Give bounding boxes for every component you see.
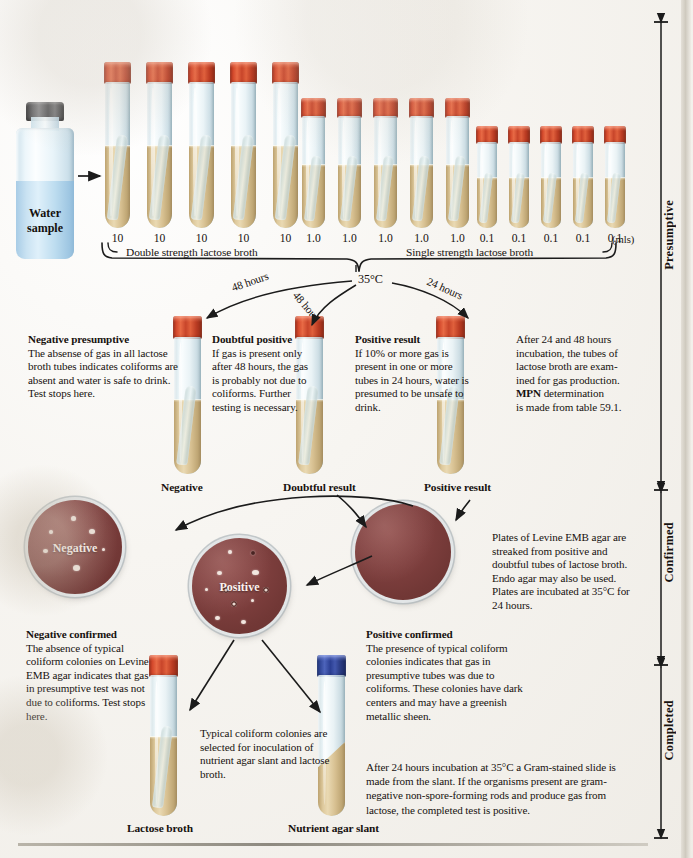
single-strength-bracket-label: Single strength lactose broth xyxy=(406,246,533,260)
positive-result-heading: Positive result xyxy=(355,333,420,345)
dilution-volume-4: 10 xyxy=(221,232,266,245)
negative-confirmed-heading: Negative confirmed xyxy=(26,628,117,640)
dilution-tube-11 xyxy=(477,142,497,228)
figure-page: Water sample xyxy=(0,0,693,858)
tube-glass xyxy=(477,142,497,228)
tube-highlight xyxy=(193,88,196,216)
page-right-edge xyxy=(681,0,691,858)
tube-glass xyxy=(147,82,172,228)
negative-presumptive-heading: Negative presumptive xyxy=(28,333,129,345)
dilution-tube-5-cap xyxy=(272,62,299,84)
water-sample-label-line2: sample xyxy=(27,221,63,235)
tube-glass xyxy=(410,116,433,228)
tube-highlight xyxy=(342,120,345,219)
tube-glass xyxy=(302,116,325,228)
colony xyxy=(217,571,222,575)
water-sample-label-line1: Water xyxy=(29,206,61,220)
dilution-tube-8 xyxy=(374,116,397,228)
dilution-volume-1: 10 xyxy=(95,232,140,245)
tube-glass xyxy=(273,82,298,228)
lactose-broth-tube xyxy=(150,675,177,816)
dilution-tube-6-cap xyxy=(301,98,326,118)
branch-label-right: 24 hours xyxy=(424,275,464,303)
mpn-note-line6: is made from table 59.1. xyxy=(516,401,621,413)
dilution-tube-4-cap xyxy=(230,62,257,84)
tube-glass xyxy=(231,82,256,228)
negative-confirmed-body: The absence of typical coliform colonies… xyxy=(26,642,149,722)
colony xyxy=(241,620,246,624)
dilution-tube-13 xyxy=(541,142,561,228)
dilution-tube-3 xyxy=(189,82,214,228)
tube-highlight xyxy=(544,145,547,221)
phase-label-completed: Completed xyxy=(662,700,677,761)
doubtful-positive-heading: Doubtful positive xyxy=(212,333,292,345)
streaked-plate xyxy=(355,504,451,600)
plate-to-tube-arrows xyxy=(190,640,320,712)
colony xyxy=(73,565,80,571)
units-label: (mls) xyxy=(612,234,634,245)
dilution-tube-10 xyxy=(446,116,469,228)
dilution-tube-3-cap xyxy=(188,62,215,84)
nutrient-agar-slant-tube-cap xyxy=(317,655,346,677)
tube-glass xyxy=(150,675,177,816)
negative-presumptive-body: The absense of gas in all lactose broth … xyxy=(28,347,178,400)
dilution-tube-9-cap xyxy=(409,98,434,118)
positive-confirmed-body: The presence of typical coliform colonie… xyxy=(366,642,523,722)
caption-nutrient-agar-slant: Nutrient agar slant xyxy=(288,822,379,834)
negative-plate: Negative xyxy=(28,500,122,594)
dilution-tube-12 xyxy=(509,142,529,228)
plate-sheen xyxy=(355,504,451,600)
positive-result-body: If 10% or more gas is present in one or … xyxy=(355,347,469,413)
tube-highlight xyxy=(414,120,417,219)
tube-caption-negative: Negative xyxy=(161,481,203,493)
tube-glass xyxy=(189,82,214,228)
mpn-note-line4: ined for gas production. xyxy=(516,374,620,386)
dilution-tube-1-cap xyxy=(104,62,131,84)
dilution-tube-5 xyxy=(273,82,298,228)
tube-highlight xyxy=(378,120,381,219)
dilution-tube-8-cap xyxy=(373,98,398,118)
tube-highlight xyxy=(512,145,515,221)
page-bottom-edge xyxy=(18,843,648,846)
dilution-tube-9 xyxy=(410,116,433,228)
tube-glass xyxy=(605,142,625,228)
negative-presumptive-block: Negative presumptive The absense of gas … xyxy=(28,333,180,401)
tube-highlight xyxy=(576,145,579,221)
phase-label-presumptive: Presumptive xyxy=(662,200,677,270)
tube-glass xyxy=(509,142,529,228)
positive-plate: Positive xyxy=(192,538,287,634)
doubtful-positive-body: If gas is present only after 48 hours, t… xyxy=(212,347,308,413)
emb-plates-note: Plates of Levine EMB agar are streaked f… xyxy=(492,531,642,613)
branch-arrows xyxy=(207,265,468,325)
negative-confirmed-block: Negative confirmed The absence of typica… xyxy=(26,628,154,723)
tube-caption-positive: Positive result xyxy=(424,481,491,493)
water-sample-label: Water sample xyxy=(16,206,74,235)
tube-glass xyxy=(374,116,397,228)
double-strength-bracket-label: Double strength lactose broth xyxy=(126,246,258,260)
dilution-tube-4 xyxy=(231,82,256,228)
inoculation-note: Typical coliform colonies are selected f… xyxy=(200,727,348,781)
tube-highlight xyxy=(480,145,483,221)
tube-glass xyxy=(573,142,593,228)
tube-glass xyxy=(541,142,561,228)
colony xyxy=(49,530,53,534)
water-bottle-body xyxy=(16,128,74,259)
mpn-note-line2: incubation, the tubes of xyxy=(516,347,618,359)
dilution-tube-2-cap xyxy=(146,62,173,84)
colony xyxy=(252,570,259,575)
mpn-note-line5-rest: determination xyxy=(541,387,604,399)
tube-highlight xyxy=(306,120,309,219)
mpn-note-block: After 24 and 48 hours incubation, the tu… xyxy=(516,333,640,415)
positive-plate-label: Positive xyxy=(192,580,287,595)
doubtful-positive-block: Doubtful positive If gas is present only… xyxy=(212,333,312,415)
caption-lactose-broth: Lactose broth xyxy=(127,822,193,834)
dilution-tube-1 xyxy=(105,82,130,228)
negative-plate-label: Negative xyxy=(28,541,122,556)
dilution-tube-7-cap xyxy=(337,98,362,118)
mpn-note-line3: lactose broth are exam- xyxy=(516,360,618,372)
tube-highlight xyxy=(277,88,280,216)
tube-highlight xyxy=(608,145,611,221)
positive-result-block: Positive result If 10% or more gas is pr… xyxy=(355,333,471,415)
dilution-volume-3: 10 xyxy=(179,232,224,245)
positive-confirmed-heading: Positive confirmed xyxy=(366,628,453,640)
